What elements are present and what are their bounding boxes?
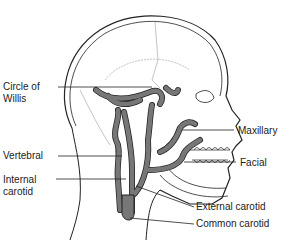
label-internal-carotid: Internal carotid [3, 174, 36, 198]
label-vertebral: Vertebral [3, 150, 43, 162]
anatomy-diagram: Circle of Willis Vertebral Internal caro… [0, 0, 298, 243]
label-facial: Facial [240, 157, 267, 169]
common-carotid-vessel [122, 195, 134, 220]
label-external-carotid: External carotid [196, 201, 265, 213]
label-maxillary: Maxillary [238, 125, 277, 137]
label-circle-of-willis: Circle of Willis [3, 81, 40, 105]
label-common-carotid: Common carotid [196, 218, 269, 230]
